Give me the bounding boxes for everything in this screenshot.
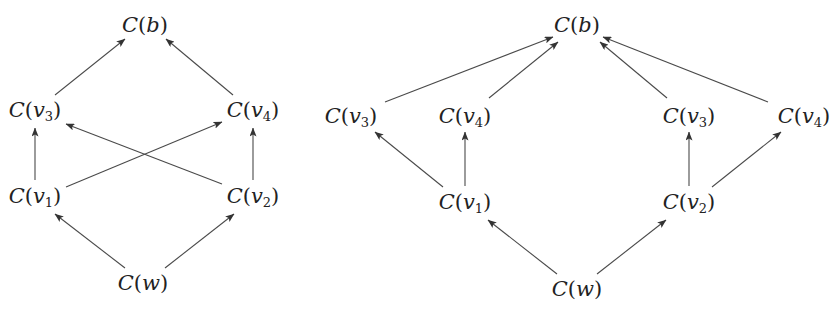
node-v3a: C(v3) [325, 104, 378, 130]
node-v4b: C(v4) [778, 104, 831, 130]
edge-v3b-to-b [600, 42, 667, 98]
node-v3: C(v3) [9, 98, 62, 124]
node-v4: C(v4) [227, 98, 280, 124]
edge-w-to-v1 [488, 220, 557, 274]
diagram-canvas: C(b)C(v3)C(v4)C(v1)C(v2)C(w) C(b)C(v3)C(… [0, 0, 837, 316]
edge-v3-to-b [55, 39, 125, 95]
edge-v2-to-v3 [66, 124, 222, 184]
edge-v4b-to-b [603, 37, 768, 102]
edge-v1-to-v3a [375, 132, 443, 187]
edge-w-to-v2 [597, 220, 666, 274]
node-v2: C(v2) [663, 190, 716, 216]
edge-v4-to-b [166, 39, 233, 95]
node-v2: C(v2) [227, 184, 280, 210]
right-graph: C(b)C(v3)C(v4)C(v1)C(v3)C(v4)C(v2)C(w) [325, 13, 831, 301]
edge-v4a-to-b [489, 42, 558, 98]
node-b: C(b) [122, 13, 168, 37]
edge-v3a-to-b [385, 37, 553, 102]
edge-w-to-v1 [55, 214, 125, 268]
node-v3b: C(v3) [663, 104, 716, 130]
node-v4a: C(v4) [439, 104, 492, 130]
node-v1: C(v1) [9, 184, 62, 210]
node-b: C(b) [554, 13, 600, 37]
node-w: C(w) [118, 271, 168, 295]
node-w: C(w) [552, 277, 602, 301]
edge-v2-to-v4b [712, 132, 781, 187]
node-v1: C(v1) [439, 190, 492, 216]
left-graph: C(b)C(v3)C(v4)C(v1)C(v2)C(w) [9, 13, 280, 295]
edge-w-to-v2 [165, 214, 234, 268]
